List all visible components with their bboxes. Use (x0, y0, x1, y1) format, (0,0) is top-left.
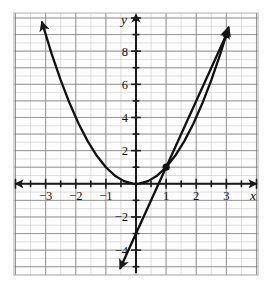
y-axis-label: y (119, 12, 127, 27)
y-tick-label: −2 (115, 210, 128, 224)
x-tick-label: 2 (193, 189, 199, 203)
x-axis-label: x (249, 188, 256, 203)
y-tick-label: 8 (122, 45, 128, 59)
x-tick-label: 1 (163, 189, 169, 203)
x-tick-label: −3 (39, 189, 52, 203)
y-tick-label: 2 (122, 144, 128, 158)
x-tick-label: −2 (69, 189, 82, 203)
data-point (223, 31, 230, 38)
coordinate-plane: −3−2−11238642−2−4xy (0, 0, 272, 289)
x-tick-label: −1 (99, 189, 112, 203)
data-point (163, 164, 170, 171)
y-tick-label: 6 (122, 78, 128, 92)
y-tick-label: 4 (122, 111, 129, 125)
graph-figure: −3−2−11238642−2−4xy (0, 0, 272, 289)
x-tick-label: 3 (223, 189, 229, 203)
